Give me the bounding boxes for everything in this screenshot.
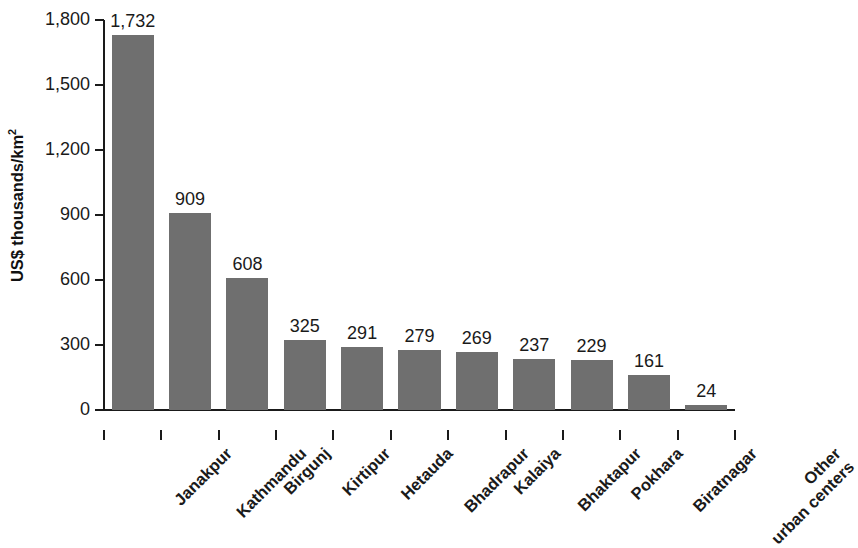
bar-value-label: 1,732 xyxy=(104,11,161,31)
y-tick-label: 1,200 xyxy=(45,138,90,160)
x-category-label-line: Biratnagar xyxy=(689,444,760,515)
y-tick-label: 1,800 xyxy=(45,8,90,30)
x-tick-mark xyxy=(677,430,679,440)
bar-value-label: 237 xyxy=(506,335,563,355)
bar-value-label: 229 xyxy=(563,336,620,356)
x-category-label: Kirtipur xyxy=(338,444,394,500)
bar[interactable] xyxy=(112,35,154,410)
bar-value-label: 161 xyxy=(620,351,677,371)
x-category-label-line: Janakpur xyxy=(170,444,235,509)
bar-value-label: 291 xyxy=(333,323,390,343)
y-tick-label: 0 xyxy=(80,398,90,420)
x-category-label-line: Hetauda xyxy=(397,444,456,503)
y-tick-mark xyxy=(95,409,104,411)
y-axis-title-text: US$ thousands/km2 xyxy=(8,129,27,282)
plot-area: 03006009001,2001,5001,800 1,732909608325… xyxy=(104,20,735,410)
x-tick-mark xyxy=(505,430,507,440)
bar[interactable] xyxy=(398,350,440,410)
bar-value-label: 909 xyxy=(161,189,218,209)
bar[interactable] xyxy=(341,347,383,410)
x-tick-mark xyxy=(390,430,392,440)
x-category-label: Hetauda xyxy=(397,444,456,503)
y-axis-title-main: US$ thousands/km xyxy=(8,135,26,282)
y-tick-mark xyxy=(95,19,104,21)
x-category-label: Janakpur xyxy=(170,444,235,509)
bar-value-label: 325 xyxy=(276,316,333,336)
x-tick-mark xyxy=(332,430,334,440)
x-category-label-line: Kirtipur xyxy=(338,444,393,499)
y-tick-label: 1,500 xyxy=(45,73,90,95)
bar[interactable] xyxy=(284,340,326,410)
y-axis-title: US$ thousands/km2 xyxy=(0,0,34,410)
y-tick-mark xyxy=(95,149,104,151)
bar[interactable] xyxy=(685,405,727,410)
y-tick-label: 600 xyxy=(60,268,90,290)
x-tick-mark xyxy=(218,430,220,440)
x-category-label: Biratnagar xyxy=(689,444,761,516)
y-tick-label: 900 xyxy=(60,203,90,225)
bar-value-label: 269 xyxy=(448,328,505,348)
y-tick-label: 300 xyxy=(60,333,90,355)
y-axis-title-superscript: 2 xyxy=(6,129,18,135)
y-tick-mark xyxy=(95,279,104,281)
bar-value-label: 279 xyxy=(391,326,448,346)
x-category-label: Bhaktapur xyxy=(574,444,645,515)
x-tick-mark xyxy=(619,430,621,440)
bar[interactable] xyxy=(571,360,613,410)
x-tick-mark xyxy=(447,430,449,440)
x-category-label-line: Bhaktapur xyxy=(574,444,644,514)
bar[interactable] xyxy=(456,352,498,410)
y-tick-mark xyxy=(95,214,104,216)
y-tick-mark xyxy=(95,344,104,346)
x-category-label: Otherurban centers xyxy=(754,444,858,548)
bar[interactable] xyxy=(226,278,268,410)
bar[interactable] xyxy=(513,359,555,410)
bar[interactable] xyxy=(169,213,211,410)
y-tick-mark xyxy=(95,84,104,86)
x-tick-mark xyxy=(734,430,736,440)
bar-value-label: 608 xyxy=(219,254,276,274)
x-tick-mark xyxy=(103,430,105,440)
x-tick-mark xyxy=(275,430,277,440)
bar[interactable] xyxy=(628,375,670,410)
x-tick-mark xyxy=(160,430,162,440)
x-tick-mark xyxy=(562,430,564,440)
bar-value-label: 24 xyxy=(678,381,735,401)
